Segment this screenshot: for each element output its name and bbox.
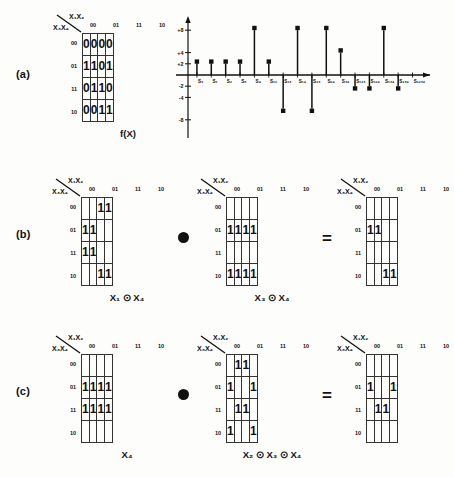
kmap-cell[interactable]: 1 [374, 220, 382, 242]
kmap-cell[interactable] [234, 377, 242, 399]
kmap-cell[interactable]: 0 [98, 34, 106, 56]
kmap-cell[interactable]: 1 [82, 377, 90, 399]
kmap-cell[interactable]: 1 [234, 220, 242, 242]
kmap-cell[interactable]: 0 [90, 34, 98, 56]
kmap-cell[interactable]: 1 [250, 220, 258, 242]
kmap-cell[interactable]: 1 [89, 399, 97, 421]
kmap-cell[interactable]: 0 [83, 100, 91, 122]
kmap-cell[interactable] [234, 242, 242, 264]
kmap-cell[interactable] [242, 242, 250, 264]
kmap-cell[interactable] [374, 355, 382, 377]
kmap-cell[interactable]: 1 [97, 399, 105, 421]
kmap-cell[interactable] [105, 242, 113, 264]
kmap-cell[interactable]: 1 [89, 220, 97, 242]
kmap-cell[interactable]: 1 [250, 264, 258, 286]
kmap-cell[interactable] [390, 220, 398, 242]
kmap-cell[interactable]: 1 [105, 399, 113, 421]
kmap-cell[interactable] [82, 264, 90, 286]
kmap-cell[interactable] [374, 421, 382, 443]
kmap-cell[interactable] [390, 198, 398, 220]
kmap-cell[interactable]: 1 [250, 421, 258, 443]
kmap-cell[interactable] [234, 198, 242, 220]
kmap-cell[interactable] [234, 421, 242, 443]
kmap-cell[interactable] [390, 355, 398, 377]
kmap-cell[interactable] [390, 242, 398, 264]
kmap-cell[interactable] [97, 355, 105, 377]
kmap-cell[interactable]: 1 [390, 264, 398, 286]
kmap-cell[interactable]: 1 [227, 220, 235, 242]
kmap-cell[interactable] [382, 421, 390, 443]
kmap-cell[interactable] [89, 264, 97, 286]
kmap-cell[interactable] [105, 421, 113, 443]
kmap-cell[interactable] [367, 242, 375, 264]
kmap-cell[interactable] [227, 355, 235, 377]
kmap-cell[interactable]: 1 [90, 78, 98, 100]
kmap-cell[interactable]: 1 [234, 264, 242, 286]
kmap-cell[interactable]: 1 [242, 220, 250, 242]
kmap-cell[interactable]: 1 [234, 399, 242, 421]
kmap-cell[interactable] [82, 421, 90, 443]
kmap-cell[interactable] [382, 377, 390, 399]
kmap-cell[interactable] [227, 399, 235, 421]
kmap-cell[interactable]: 1 [367, 220, 375, 242]
kmap-cell[interactable]: 0 [90, 100, 98, 122]
kmap-cell[interactable]: 1 [89, 242, 97, 264]
kmap-cell[interactable] [390, 399, 398, 421]
kmap-cell[interactable]: 1 [382, 264, 390, 286]
kmap-cell[interactable] [374, 377, 382, 399]
kmap-cell[interactable] [82, 198, 90, 220]
kmap-cell[interactable] [242, 377, 250, 399]
kmap-cell[interactable]: 1 [105, 198, 113, 220]
kmap-cell[interactable]: 1 [382, 399, 390, 421]
kmap-cell[interactable] [250, 355, 258, 377]
kmap-cell[interactable]: 0 [83, 34, 91, 56]
kmap-cell[interactable] [382, 242, 390, 264]
kmap-cell[interactable]: 1 [106, 56, 114, 78]
kmap-cell[interactable] [227, 242, 235, 264]
kmap-cell[interactable]: 0 [106, 34, 114, 56]
kmap-cell[interactable]: 1 [105, 377, 113, 399]
kmap-cell[interactable]: 0 [106, 78, 114, 100]
kmap-cell[interactable]: 1 [105, 264, 113, 286]
kmap-cell[interactable]: 1 [82, 399, 90, 421]
kmap-cell[interactable] [242, 198, 250, 220]
kmap-cell[interactable] [97, 220, 105, 242]
kmap-cell[interactable]: 0 [83, 78, 91, 100]
kmap-cell[interactable]: 1 [83, 56, 91, 78]
kmap-cell[interactable]: 1 [250, 377, 258, 399]
kmap-cell[interactable] [382, 198, 390, 220]
kmap-cell[interactable]: 0 [98, 56, 106, 78]
kmap-cell[interactable] [374, 264, 382, 286]
kmap-cell[interactable]: 1 [227, 264, 235, 286]
kmap-cell[interactable] [89, 421, 97, 443]
kmap-cell[interactable]: 1 [242, 355, 250, 377]
kmap-cell[interactable] [242, 421, 250, 443]
kmap-cell[interactable]: 1 [98, 100, 106, 122]
kmap-cell[interactable] [105, 220, 113, 242]
kmap-cell[interactable] [367, 198, 375, 220]
kmap-cell[interactable] [89, 355, 97, 377]
kmap-cell[interactable]: 1 [367, 377, 375, 399]
kmap-cell[interactable]: 1 [90, 56, 98, 78]
kmap-cell[interactable]: 1 [97, 264, 105, 286]
kmap-cell[interactable]: 1 [106, 100, 114, 122]
kmap-cell[interactable] [82, 355, 90, 377]
kmap-cell[interactable]: 1 [374, 399, 382, 421]
kmap-cell[interactable]: 1 [390, 377, 398, 399]
kmap-cell[interactable] [390, 421, 398, 443]
kmap-cell[interactable]: 1 [227, 421, 235, 443]
kmap-cell[interactable] [382, 355, 390, 377]
kmap-cell[interactable] [250, 399, 258, 421]
kmap-cell[interactable]: 1 [242, 264, 250, 286]
kmap-cell[interactable]: 1 [97, 198, 105, 220]
kmap-cell[interactable] [367, 264, 375, 286]
kmap-cell[interactable] [367, 355, 375, 377]
kmap-cell[interactable]: 1 [227, 377, 235, 399]
kmap-cell[interactable] [105, 355, 113, 377]
kmap-cell[interactable]: 1 [98, 78, 106, 100]
kmap-cell[interactable] [250, 242, 258, 264]
kmap-cell[interactable] [374, 198, 382, 220]
kmap-cell[interactable]: 1 [242, 399, 250, 421]
kmap-cell[interactable] [374, 242, 382, 264]
kmap-cell[interactable]: 1 [234, 355, 242, 377]
